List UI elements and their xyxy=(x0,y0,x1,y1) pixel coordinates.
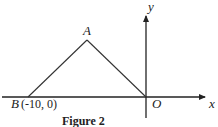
origin-label: O xyxy=(152,96,162,111)
x-axis-label: x xyxy=(208,96,215,111)
figure-2-diagram: y x A B (-10, 0) O Figure 2 xyxy=(0,0,218,127)
segment-ba xyxy=(28,40,87,97)
point-b-coords: (-10, 0) xyxy=(21,97,57,111)
point-b-label: B xyxy=(11,96,19,111)
y-axis-label: y xyxy=(146,0,154,14)
point-a-label: A xyxy=(82,23,91,38)
figure-caption: Figure 2 xyxy=(62,114,105,127)
segment-ao xyxy=(87,40,146,97)
